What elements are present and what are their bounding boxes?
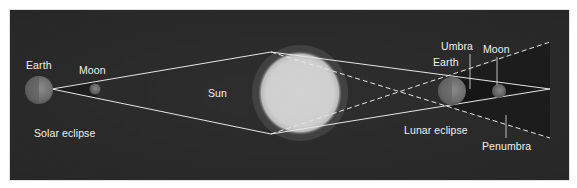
penumbra-label: Penumbra [482, 140, 531, 152]
eclipse-diagram [0, 0, 577, 188]
earth-label-solar: Earth [26, 59, 52, 71]
solar-eclipse-caption: Solar eclipse [34, 127, 95, 139]
moon-label-lunar: Moon [483, 43, 510, 55]
sun-icon [258, 51, 342, 135]
moon-label-solar: Moon [79, 64, 106, 76]
sun-label: Sun [208, 87, 227, 99]
moon-icon-solar [90, 84, 101, 95]
umbra-label: Umbra [441, 40, 473, 52]
earth-label-lunar: Earth [433, 56, 459, 68]
moon-icon-lunar [492, 84, 506, 98]
lunar-eclipse-caption: Lunar eclipse [404, 124, 468, 136]
